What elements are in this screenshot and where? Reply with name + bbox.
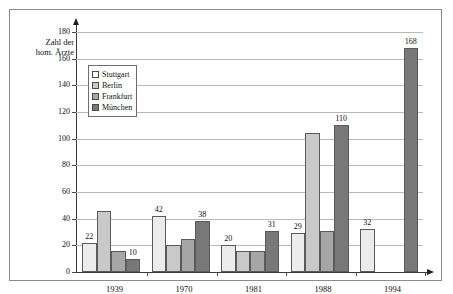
x-axis-line — [76, 272, 427, 273]
y-axis-tick-label: 20 — [40, 241, 70, 249]
bar — [97, 211, 112, 272]
y-axis-tick-label: 100 — [40, 135, 70, 143]
chart-frame: Zahl der hom. Ärzte 02040608010012014016… — [9, 9, 442, 281]
legend-item: Frankfurt — [92, 91, 132, 102]
legend-item-label: Stuttgart — [102, 71, 130, 79]
y-axis-tick-mark — [72, 192, 76, 193]
y-axis-tick-label: 160 — [40, 55, 70, 63]
y-axis-tick-label: 40 — [40, 215, 70, 223]
legend-swatch-icon — [92, 71, 99, 78]
y-axis-title-line1: Zahl der — [26, 37, 74, 47]
legend-item-label: München — [102, 104, 132, 112]
bar-value-label: 168 — [396, 37, 426, 46]
bar-value-label: 38 — [187, 210, 217, 219]
plot-area: 020406080100120140160180 221042382031291… — [76, 32, 431, 272]
bar-value-label: 32 — [352, 218, 382, 227]
y-axis-tick-mark — [72, 245, 76, 246]
y-axis-tick-mark — [72, 59, 76, 60]
x-axis-tick-label: 1939 — [80, 284, 150, 294]
y-axis-tick-label: 60 — [40, 188, 70, 196]
legend-item: Stuttgart — [92, 69, 132, 80]
bar — [265, 231, 280, 272]
bar — [221, 245, 236, 272]
bar — [152, 216, 167, 272]
y-axis-tick-mark — [72, 219, 76, 220]
bar-value-label: 20 — [213, 234, 243, 243]
x-axis-tick-label: 1988 — [288, 284, 358, 294]
y-axis-tick-mark — [72, 272, 76, 273]
bar — [181, 239, 196, 272]
bar-value-label: 10 — [118, 248, 148, 257]
x-axis-tick-label: 1994 — [358, 284, 428, 294]
y-axis-tick-label: 0 — [40, 268, 70, 276]
bar — [291, 233, 306, 272]
y-axis-tick-mark — [72, 32, 76, 33]
bar — [236, 251, 251, 272]
bar — [404, 48, 419, 272]
legend-swatch-icon — [92, 93, 99, 100]
bar — [250, 251, 265, 272]
bar — [166, 245, 181, 272]
bar — [334, 125, 349, 272]
x-axis-tick-mark — [147, 272, 148, 276]
legend-item: Berlin — [92, 80, 132, 91]
x-axis-arrow-icon — [427, 269, 434, 275]
bar — [320, 231, 335, 272]
legend-swatch-icon — [92, 82, 99, 89]
y-axis-tick-label: 80 — [40, 161, 70, 169]
x-axis-tick-mark — [425, 272, 426, 276]
x-axis-tick-mark — [356, 272, 357, 276]
x-axis-tick-label: 1970 — [149, 284, 219, 294]
legend-item-label: Frankfurt — [102, 93, 132, 101]
bar-value-label: 42 — [144, 205, 174, 214]
gridline — [76, 59, 423, 60]
x-axis-tick-label: 1981 — [219, 284, 289, 294]
y-axis-tick-mark — [72, 85, 76, 86]
bar — [360, 229, 375, 272]
gridline — [76, 32, 423, 33]
bar — [126, 259, 141, 272]
legend-swatch-icon — [92, 104, 99, 111]
bar — [195, 221, 210, 272]
gridline — [76, 165, 423, 166]
gridline — [76, 139, 423, 140]
bar — [305, 133, 320, 272]
chart-legend: StuttgartBerlinFrankfurtMünchen — [88, 65, 137, 117]
bar-value-label: 110 — [326, 114, 356, 123]
y-axis-tick-label: 120 — [40, 108, 70, 116]
y-axis-tick-mark — [72, 112, 76, 113]
y-axis-tick-mark — [72, 139, 76, 140]
gridline — [76, 192, 423, 193]
y-axis-tick-label: 140 — [40, 81, 70, 89]
y-axis-arrow-icon — [73, 18, 79, 25]
x-axis-tick-mark — [286, 272, 287, 276]
y-axis-tick-mark — [72, 165, 76, 166]
x-axis-tick-mark — [217, 272, 218, 276]
legend-item: München — [92, 102, 132, 113]
legend-item-label: Berlin — [102, 82, 122, 90]
bar — [82, 243, 97, 272]
y-axis-tick-label: 180 — [40, 28, 70, 36]
